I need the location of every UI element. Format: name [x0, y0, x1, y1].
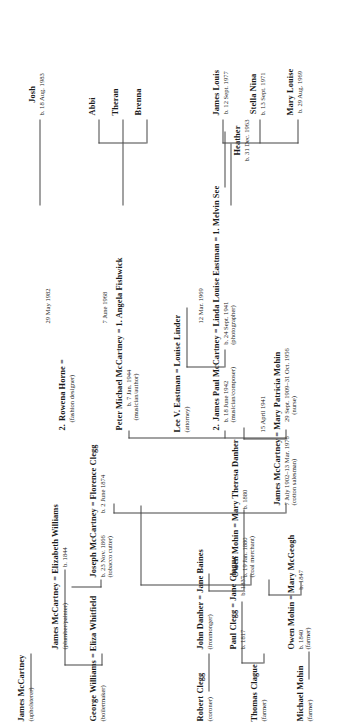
- family-tree-canvas: James McCartney (upholsterer) George Wil…: [0, 0, 363, 727]
- person-name: Robert Clegg: [195, 672, 205, 721]
- person-name: Theran: [110, 88, 120, 115]
- prior-marriage-equals: =: [211, 234, 221, 243]
- connector-line: [101, 653, 102, 665]
- marriage-equals: =: [195, 592, 205, 601]
- person-owen-mohin-2: Owen Mohin = Mary Theresa Danher b. 19 J…: [230, 439, 255, 577]
- connector-line: [64, 569, 65, 665]
- connector-line: [268, 579, 269, 595]
- person-name: James McCartney: [16, 654, 26, 721]
- connector-line: [140, 505, 141, 585]
- spouse-name: Mary Theresa Danher: [230, 439, 240, 521]
- connector-line: [241, 601, 242, 663]
- person-birth: b. 31 Dec. 1963: [242, 119, 250, 161]
- person-occupation: (farmer): [259, 664, 267, 721]
- spouse-birth: b. 1880: [240, 489, 248, 509]
- person-name: Owen Mohin: [230, 529, 240, 577]
- person-birth: b. 12 Sept. 1977: [221, 69, 229, 115]
- connector-line: [268, 594, 300, 595]
- spouse-name: Florence Clegg: [88, 444, 98, 499]
- connector-line: [230, 143, 231, 205]
- person-name: Brenna: [133, 88, 143, 115]
- connector-line: [186, 307, 187, 367]
- person-occupation: (upholsterer): [26, 654, 34, 721]
- connector-line: [224, 430, 225, 438]
- person-abbi: Abbi: [87, 97, 97, 115]
- person-name: Thomas Clague: [249, 664, 259, 721]
- spouse-birth: 29 Sept. 1909–31 Oct. 1956: [282, 348, 290, 422]
- connector-line: [241, 662, 263, 663]
- connector-line: [146, 119, 147, 143]
- connector-line: [250, 573, 251, 585]
- person-occupation: (musician/author): [131, 373, 139, 420]
- spouse-name: Mary Patricia Mohin: [272, 351, 282, 429]
- marriage-equals: =: [211, 326, 221, 335]
- person-name: James Louis: [211, 69, 221, 115]
- person-name: James McCartney: [50, 582, 60, 649]
- person-birth: b. 29 Aug. 1969: [295, 68, 303, 115]
- person-birth: b. 1840: [296, 629, 304, 649]
- person-occupation: (ironmonger): [205, 549, 213, 649]
- spouse-name: Elizabeth Williams: [50, 504, 60, 574]
- connector-line: [98, 119, 99, 143]
- person-name: Rowena Horne: [57, 366, 67, 421]
- person-name: Owen Mohin: [286, 601, 296, 649]
- person-birth: b. 18 Aug. 1983: [37, 73, 45, 115]
- connector-line: [208, 590, 243, 591]
- person-occupation: (plumber/painter): [60, 602, 68, 649]
- connector-line: [186, 366, 224, 367]
- connector-line: [259, 119, 260, 143]
- marriage-equals: =: [88, 651, 98, 660]
- person-birth: 7 July 1902–13 Mar. 1976: [282, 436, 290, 505]
- spouse-prior-partner: 1. Melvin See: [211, 185, 221, 234]
- person-name: Joseph McCartney: [88, 508, 98, 577]
- connector-line: [308, 651, 309, 679]
- connector-line: [297, 119, 298, 143]
- connector-line: [30, 653, 31, 691]
- person-theran: Theran: [110, 88, 120, 115]
- person-name: Stella Nina: [248, 72, 258, 115]
- connector-line: [300, 581, 301, 595]
- person-josh: Josh b. 18 Aug. 1983: [27, 73, 44, 115]
- spouse-birth: b. 1847: [296, 569, 304, 589]
- connector-line: [263, 653, 264, 663]
- person-name: James McCartney: [272, 438, 282, 505]
- person-birth: b. 13 Sept. 1971: [258, 72, 266, 115]
- person-name: Paul Clegg: [228, 609, 238, 649]
- person-mary-louise: Mary Louise b. 29 Aug. 1969: [285, 68, 302, 115]
- marriage-equals: =: [228, 600, 238, 609]
- person-rowena-horne: 2. Rowena Horne = (fashion designer): [57, 357, 74, 430]
- person-paul-mccartney: 2. James Paul McCartney = Linda Louise E…: [211, 185, 236, 430]
- person-name: Heather: [232, 119, 242, 161]
- person-birth: b. 18 June 1942: [221, 380, 229, 422]
- connector-line: [122, 143, 123, 205]
- spouse-name: 1. Angela Fishwick: [114, 257, 124, 326]
- spouse-name: Eliza Whitfield: [88, 595, 98, 651]
- marriage-equals: =: [57, 357, 67, 366]
- person-occupation: (cotton salesman): [289, 458, 297, 505]
- person-owen-mohin-sr: Owen Mohin = Mary McGeogh b. 1840 b. 184…: [286, 534, 311, 649]
- connector-line: [113, 512, 285, 513]
- spouse-name: Mary McGeogh: [286, 534, 296, 592]
- connector-line: [39, 119, 40, 205]
- person-name: George Williams: [88, 660, 98, 721]
- connector-line: [64, 664, 102, 665]
- connector-line: [224, 131, 225, 187]
- connector-line: [243, 509, 244, 591]
- person-name: Michael Mohin: [295, 665, 305, 721]
- person-occupation: (attorney): [182, 314, 190, 432]
- marriage-equals: =: [230, 520, 240, 529]
- spouse-name: Linda Louise Eastman: [211, 243, 221, 326]
- person-mike-mccartney: Peter Michael McCartney = 1. Angela Fish…: [114, 257, 139, 430]
- connector-line: [224, 349, 225, 367]
- person-occupation: (coal merchant): [247, 439, 255, 577]
- person-robert-clegg: Robert Clegg (coroner): [195, 672, 212, 721]
- person-occupation: (farmer): [303, 534, 311, 649]
- marriage-equals: =: [172, 366, 182, 375]
- person-name: Josh: [27, 73, 37, 115]
- person-stella-nina: Stella Nina b. 13 Sept. 1971: [248, 72, 265, 115]
- person-name: Abbi: [87, 97, 97, 115]
- person-name: Mary Louise: [285, 68, 295, 115]
- marriage-date-paul-linda: 12 Mar. 1969: [196, 288, 203, 323]
- marriage-date-james-mary: 15 April 1941: [258, 395, 265, 432]
- connector-line: [208, 653, 209, 691]
